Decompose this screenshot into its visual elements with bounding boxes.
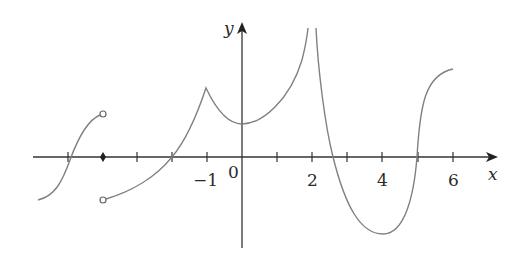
function-graph: y x 0 −1 2 4 6 — [0, 0, 518, 261]
open-circle-lower — [100, 197, 106, 203]
tick-label-4: 4 — [377, 170, 388, 190]
tick-label-neg1: −1 — [193, 170, 218, 190]
curve-branch-3 — [316, 28, 453, 234]
open-circle-upper — [100, 111, 106, 117]
x-axis-label: x — [488, 164, 498, 184]
tick-label-6: 6 — [448, 170, 459, 190]
origin-label: 0 — [228, 162, 239, 182]
y-axis-label: y — [223, 18, 234, 38]
tick-label-2: 2 — [307, 170, 318, 190]
filled-point-marker — [100, 152, 106, 162]
